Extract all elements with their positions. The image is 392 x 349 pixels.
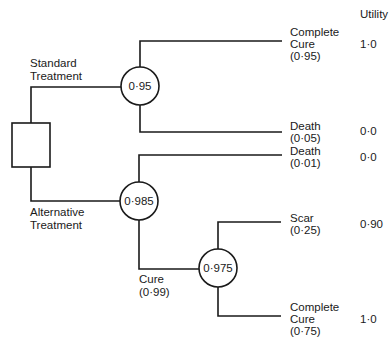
outcome-label-line: (0·01) xyxy=(290,157,321,169)
outcome-line-death-005 xyxy=(140,105,282,132)
alternative-treatment-label-line2: Treatment xyxy=(30,219,83,231)
outcome-label-line: (0·95) xyxy=(290,50,321,62)
outcome-death-001: Death (0·01) 0·0 xyxy=(290,145,377,169)
outcome-utility: 1·0 xyxy=(360,38,377,50)
alternative-treatment-label-line1: Alternative xyxy=(30,206,84,218)
outcome-utility: 0·0 xyxy=(360,125,377,137)
chance-node-cure-value: 0·975 xyxy=(203,262,232,274)
alternative-treatment-branch-line xyxy=(31,167,120,201)
outcome-line-complete-cure-095 xyxy=(140,41,282,67)
outcome-scar-025: Scar (0·25) 0·90 xyxy=(290,212,383,236)
decision-tree-diagram: Utility Standard Treatment Alternative T… xyxy=(0,0,392,349)
chance-node-alternative: 0·985 xyxy=(120,182,158,220)
outcome-complete-cure-095: Complete Cure (0·95) 1·0 xyxy=(290,26,377,62)
chance-node-standard-value: 0·95 xyxy=(128,80,151,92)
cure-branch-label-line2: (0·99) xyxy=(139,286,170,298)
outcome-label-line: (0·75) xyxy=(290,325,321,337)
outcome-utility: 0·90 xyxy=(360,218,383,230)
outcome-utility: 0·0 xyxy=(360,151,377,163)
outcome-line-scar-025 xyxy=(218,222,281,249)
standard-treatment-label-line1: Standard xyxy=(30,57,77,69)
outcome-label-line: Death xyxy=(290,145,321,157)
outcome-label-line: Scar xyxy=(290,212,314,224)
outcome-line-complete-cure-075 xyxy=(218,287,281,316)
outcome-label-line: (0·25) xyxy=(290,224,321,236)
standard-treatment-branch-line xyxy=(31,87,121,123)
cure-branch-label-line1: Cure xyxy=(139,273,164,285)
outcome-label-line: Complete xyxy=(290,301,339,313)
outcome-death-005: Death (0·05) 0·0 xyxy=(290,120,377,144)
chance-node-cure: 0·975 xyxy=(199,249,237,287)
decision-node xyxy=(12,123,50,167)
utility-header: Utility xyxy=(360,8,388,20)
outcome-label-line: Complete xyxy=(290,26,339,38)
outcome-utility: 1·0 xyxy=(360,313,377,325)
outcome-label-line: (0·05) xyxy=(290,132,321,144)
outcome-complete-cure-075: Complete Cure (0·75) 1·0 xyxy=(290,301,377,337)
cure-branch-line xyxy=(139,220,199,269)
chance-node-alternative-value: 0·985 xyxy=(124,195,153,207)
outcome-line-death-001 xyxy=(139,155,282,182)
outcome-label-line: Cure xyxy=(290,313,315,325)
standard-treatment-label-line2: Treatment xyxy=(30,70,83,82)
chance-node-standard: 0·95 xyxy=(121,67,159,105)
outcome-label-line: Death xyxy=(290,120,321,132)
outcome-label-line: Cure xyxy=(290,38,315,50)
